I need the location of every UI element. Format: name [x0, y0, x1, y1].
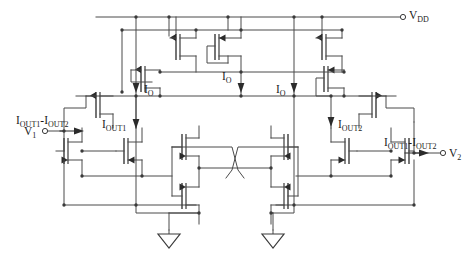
idiff-label-right: IOUT1-IOUT2: [384, 136, 436, 151]
nmos-input-left-b: [82, 128, 142, 176]
ground-left: [158, 230, 180, 248]
nmos-input-left-a: [56, 128, 82, 176]
pmos-bias-center: [207, 17, 241, 72]
pmos-source-right: [359, 92, 414, 128]
vdd-label: VDD: [409, 9, 429, 24]
v2-terminal-dot: [440, 150, 445, 155]
v2-label: V2: [449, 147, 461, 162]
idiff-label-left: IOUT1-IOUT2: [16, 114, 68, 129]
circuit-diagram: VDD V1 V2 IO IO IO IOUT1 IOUT2 IOUT1-IOU…: [0, 0, 470, 263]
bias-gate-bus: [122, 30, 342, 92]
schematic-canvas: VDD V1 V2 IO IO IO IOUT1 IOUT2 IOUT1-IOU…: [0, 0, 470, 263]
io-arrow-left: [133, 83, 140, 93]
right-source-rail: [276, 160, 414, 205]
nmos-input-right-a: [331, 128, 357, 176]
pmos-bias-right: [316, 17, 342, 72]
vdd-rail: [96, 14, 406, 19]
io-arrow-right: [291, 83, 298, 93]
junction-dots: [62, 15, 415, 214]
v1-terminal-dot: [42, 128, 47, 133]
pmos-bias-left: [170, 17, 196, 72]
ground-right: [262, 230, 284, 248]
center-lower-nets: [136, 205, 294, 230]
pmos-cascode-right: [316, 66, 344, 96]
iout2-arrow: [328, 117, 335, 127]
iout1-arrow: [133, 119, 140, 129]
io-arrow-center: [238, 83, 245, 93]
cross-coupling-x: [172, 147, 298, 178]
iout1-label: IOUT1: [102, 118, 126, 133]
left-source-rail: [64, 160, 196, 205]
vdd-terminal-dot: [400, 14, 405, 19]
branch-lines: [136, 17, 331, 205]
